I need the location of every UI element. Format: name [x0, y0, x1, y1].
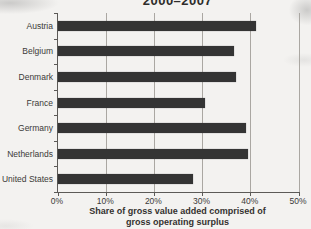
bar-france: [58, 98, 205, 108]
category-label: Austria: [0, 21, 53, 31]
y-axis-tick: [54, 141, 58, 142]
category-label: Germany: [0, 123, 53, 133]
category-label: Netherlands: [0, 149, 53, 159]
x-tick-label: 30%: [187, 196, 217, 206]
plot-area: [57, 13, 299, 193]
category-label: France: [0, 98, 53, 108]
bar-united-states: [58, 174, 193, 184]
gridline: [299, 13, 300, 192]
bar-belgium: [58, 46, 234, 56]
bar-netherlands: [58, 149, 248, 159]
x-tick-label: 0%: [42, 196, 72, 206]
category-label: Belgium: [0, 46, 53, 56]
gridline: [250, 13, 251, 192]
bar-chart-figure: 2000–2007 AustriaBelgiumDenmarkFranceGer…: [0, 0, 311, 229]
category-label: Denmark: [0, 72, 53, 82]
bar-denmark: [58, 72, 236, 82]
chart-title: 2000–2007: [57, 0, 298, 8]
y-axis-tick: [54, 13, 58, 14]
x-tick-label: 10%: [90, 196, 120, 206]
x-tick-label: 50%: [283, 196, 311, 206]
y-axis-tick: [54, 64, 58, 65]
x-axis-label-line2: gross operating surplus: [37, 217, 311, 228]
y-axis-tick: [54, 166, 58, 167]
category-label: United States: [0, 174, 53, 184]
bar-germany: [58, 123, 246, 133]
x-tick-label: 20%: [138, 196, 168, 206]
x-axis-label: Share of gross value added comprised of …: [37, 206, 311, 228]
y-axis-tick: [54, 90, 58, 91]
y-axis-tick: [54, 115, 58, 116]
y-axis-tick: [54, 39, 58, 40]
y-axis-tick: [54, 192, 58, 193]
x-tick-label: 40%: [235, 196, 265, 206]
bar-austria: [58, 21, 256, 31]
x-axis-label-line1: Share of gross value added comprised of: [37, 206, 311, 217]
